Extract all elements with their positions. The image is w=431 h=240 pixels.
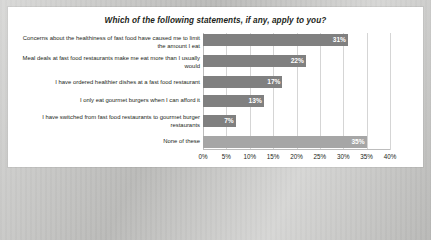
bar-row: 35%: [203, 136, 390, 148]
bar-row: 22%: [203, 55, 390, 67]
bar-value-label: 13%: [249, 98, 262, 105]
x-tick-label: 0%: [198, 153, 207, 160]
x-tick-label: 5%: [222, 153, 231, 160]
bar-row: 7%: [203, 115, 390, 127]
plot-area: 31% 22% 17% 13%: [203, 33, 390, 150]
category-axis-labels: Concerns about the healthiness of fast f…: [18, 33, 200, 150]
x-tick-label: 25%: [314, 153, 327, 160]
x-axis-tick-labels: 0% 5% 10% 15% 20% 25% 30% 35% 40%: [203, 153, 390, 165]
bar-series: 31% 22% 17% 13%: [203, 33, 390, 150]
gridline: [390, 33, 391, 150]
x-tick-label: 10%: [243, 153, 256, 160]
x-tick-label: 30%: [337, 153, 350, 160]
page-background: Which of the following statements, if an…: [0, 0, 431, 175]
category-label: Meal deals at fast food restaurants make…: [18, 55, 200, 70]
x-tick-label: 20%: [290, 153, 303, 160]
bar[interactable]: 13%: [203, 95, 264, 107]
chart-panel: Which of the following statements, if an…: [8, 7, 423, 167]
x-tick-label: 15%: [267, 153, 280, 160]
category-label: I only eat gourmet burgers when I can af…: [18, 97, 200, 105]
bar[interactable]: 7%: [203, 115, 236, 127]
bar-value-label: 7%: [224, 118, 234, 125]
category-label: I have ordered healthier dishes at a fas…: [18, 79, 200, 87]
bar-value-label: 31%: [333, 37, 346, 44]
x-tick-label: 40%: [384, 153, 397, 160]
chart-title: Which of the following statements, if an…: [8, 16, 423, 25]
bar-row: 31%: [203, 34, 390, 46]
x-tick-label: 35%: [360, 153, 373, 160]
category-label: Concerns about the healthiness of fast f…: [18, 35, 200, 50]
bar-value-label: 17%: [267, 79, 280, 86]
bar-value-label: 22%: [291, 58, 304, 65]
category-label: I have switched from fast food restauran…: [18, 114, 200, 129]
bar[interactable]: 31%: [203, 34, 348, 46]
bar-row: 17%: [203, 76, 390, 88]
bar-row: 13%: [203, 95, 390, 107]
category-label: None of these: [18, 138, 200, 146]
bar[interactable]: 17%: [203, 76, 282, 88]
bar-value-label: 35%: [351, 139, 364, 146]
bar[interactable]: 22%: [203, 55, 306, 67]
bar[interactable]: 35%: [203, 136, 367, 148]
